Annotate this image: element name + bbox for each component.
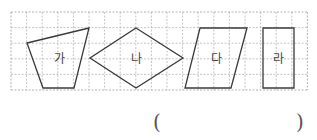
shape-label-na: 나 (131, 52, 142, 66)
shape-label-da: 다 (211, 52, 222, 66)
shape-label-ra: 라 (273, 52, 284, 66)
open-parenthesis: ( (153, 112, 161, 132)
close-parenthesis: ) (296, 112, 304, 132)
shapes-group: 가나다라 (27, 28, 294, 88)
shape-label-ga: 가 (54, 52, 65, 66)
grid-figure: 가나다라 (0, 0, 317, 100)
